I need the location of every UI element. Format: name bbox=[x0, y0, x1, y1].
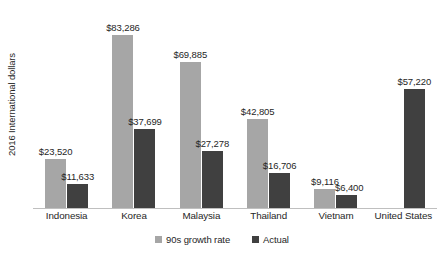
bar-chart: 2016 International dollars $23,520$11,63… bbox=[0, 0, 444, 265]
bar-value-label: $57,220 bbox=[397, 76, 431, 87]
bar-value-label: $11,633 bbox=[61, 171, 94, 182]
x-axis-category-label: United States bbox=[370, 210, 437, 221]
x-axis-category-label: Vietnam bbox=[302, 210, 369, 221]
bar-value-label: $83,286 bbox=[106, 22, 140, 33]
bar-group-bars: $69,885$27,278 bbox=[168, 8, 235, 208]
bar-value-label: $16,706 bbox=[263, 160, 297, 171]
plot-area: $23,520$11,633$83,286$37,699$69,885$27,2… bbox=[33, 8, 437, 208]
bar: $69,885 bbox=[180, 62, 201, 208]
x-axis-category-label: Malaysia bbox=[168, 210, 235, 221]
bar: $11,633 bbox=[67, 184, 88, 208]
legend-item-90s-growth-rate: 90s growth rate bbox=[155, 234, 230, 245]
bar-value-label: $23,520 bbox=[39, 146, 73, 157]
bar-group: $83,286$37,699 bbox=[100, 8, 167, 208]
bar: $23,520 bbox=[45, 159, 66, 208]
x-axis-category-label: Indonesia bbox=[33, 210, 100, 221]
bar-group: $42,805$16,706 bbox=[235, 8, 302, 208]
legend-swatch-icon-90s-growth-rate bbox=[155, 236, 162, 243]
bar: $9,116 bbox=[314, 189, 335, 208]
bar-value-label: $27,278 bbox=[195, 138, 229, 149]
bar-group-bars: $9,116$6,400 bbox=[302, 8, 369, 208]
bar: $37,699 bbox=[134, 129, 155, 208]
bar-group: $23,520$11,633 bbox=[33, 8, 100, 208]
legend-label-90s-growth-rate: 90s growth rate bbox=[166, 234, 230, 245]
x-axis-category-label: Thailand bbox=[235, 210, 302, 221]
y-axis-title-text: 2016 International dollars bbox=[6, 53, 17, 156]
bar: $6,400 bbox=[336, 195, 357, 208]
bar-value-label: $69,885 bbox=[173, 49, 207, 60]
legend-swatch-icon-actual bbox=[252, 236, 259, 243]
bar-group: $9,116$6,400 bbox=[302, 8, 369, 208]
chart-legend: 90s growth rate Actual bbox=[0, 234, 444, 245]
bar-group: $69,885$27,278 bbox=[168, 8, 235, 208]
bar: $16,706 bbox=[269, 173, 290, 208]
bar-group-bars: $83,286$37,699 bbox=[100, 8, 167, 208]
bar-group-bars: $42,805$16,706 bbox=[235, 8, 302, 208]
y-axis-title: 2016 International dollars bbox=[0, 0, 22, 208]
bar-group: $57,220 bbox=[370, 8, 437, 208]
bar-group-bars: $57,220 bbox=[370, 8, 437, 208]
bar-group-bars: $23,520$11,633 bbox=[33, 8, 100, 208]
bar: $27,278 bbox=[202, 151, 223, 208]
legend-item-actual: Actual bbox=[252, 234, 289, 245]
x-axis-category-label: Korea bbox=[100, 210, 167, 221]
bar: $57,220 bbox=[404, 89, 425, 208]
legend-label-actual: Actual bbox=[263, 234, 289, 245]
bar-value-label: $6,400 bbox=[335, 182, 363, 193]
bar-value-label: $37,699 bbox=[128, 116, 162, 127]
bar-value-label: $42,805 bbox=[241, 106, 275, 117]
